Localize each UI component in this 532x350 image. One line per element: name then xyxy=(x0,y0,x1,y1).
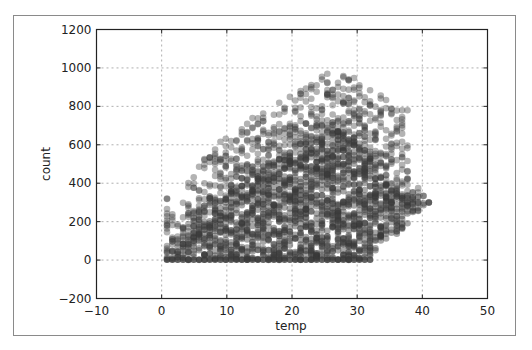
data-point xyxy=(292,124,299,131)
data-point xyxy=(319,103,326,110)
data-point xyxy=(313,82,320,89)
data-point xyxy=(244,152,251,159)
data-point xyxy=(404,145,411,152)
x-tick-label: 0 xyxy=(158,304,166,318)
data-point xyxy=(351,160,358,167)
data-point xyxy=(324,80,331,87)
data-point xyxy=(303,91,310,98)
scatter-chart: −1001020304050 −200020040060080010001200… xyxy=(0,0,532,350)
data-point xyxy=(351,75,358,82)
data-point xyxy=(399,130,406,137)
data-point xyxy=(340,114,347,121)
data-point xyxy=(260,118,267,125)
data-point xyxy=(335,230,342,237)
data-point xyxy=(303,120,310,127)
data-point xyxy=(292,109,299,116)
data-point xyxy=(335,79,342,86)
data-point xyxy=(356,90,363,97)
data-point xyxy=(399,122,406,129)
data-point xyxy=(399,114,406,121)
data-point xyxy=(244,130,251,137)
data-point xyxy=(372,247,379,254)
data-point xyxy=(190,174,197,181)
data-point xyxy=(169,217,176,224)
x-tick-label: 20 xyxy=(284,304,299,318)
data-point xyxy=(361,94,368,101)
data-point xyxy=(164,195,171,202)
data-point xyxy=(239,147,246,154)
data-point xyxy=(319,218,326,225)
data-point xyxy=(404,176,411,183)
data-point xyxy=(399,138,406,145)
y-tick-label: 200 xyxy=(69,215,92,229)
data-point xyxy=(297,104,304,111)
data-point xyxy=(361,123,368,130)
data-point xyxy=(404,158,411,165)
y-tick-label: 1200 xyxy=(61,23,92,37)
data-point xyxy=(388,151,395,158)
data-point xyxy=(276,121,283,128)
data-point xyxy=(233,156,240,163)
data-point xyxy=(324,70,331,77)
data-point xyxy=(201,189,208,196)
data-point xyxy=(297,94,304,101)
data-point xyxy=(281,104,288,111)
y-tick-label: 600 xyxy=(69,138,92,152)
data-point xyxy=(222,163,229,170)
data-point xyxy=(367,256,374,263)
data-point xyxy=(244,176,251,183)
x-tick-label: −10 xyxy=(84,304,109,318)
data-point xyxy=(372,129,379,136)
x-tick-label: 40 xyxy=(415,304,430,318)
data-point xyxy=(377,123,384,130)
data-point xyxy=(313,88,320,95)
data-point xyxy=(404,168,411,175)
data-point xyxy=(367,87,374,94)
data-point xyxy=(372,137,379,144)
data-point xyxy=(345,234,352,241)
data-point xyxy=(185,203,192,210)
data-point xyxy=(260,110,267,117)
data-point xyxy=(383,97,390,104)
data-point xyxy=(329,111,336,118)
data-point xyxy=(164,245,171,252)
data-point xyxy=(255,135,262,142)
y-axis-label: count xyxy=(39,147,53,181)
data-point xyxy=(196,247,203,254)
y-tick-label: 1000 xyxy=(61,61,92,75)
y-tick-label: −200 xyxy=(59,292,92,306)
data-point xyxy=(308,95,315,102)
data-point xyxy=(404,220,411,227)
data-point xyxy=(233,138,240,145)
data-point xyxy=(351,99,358,106)
data-point xyxy=(255,151,262,158)
x-axis-label: temp xyxy=(275,319,306,333)
y-tick-label: 0 xyxy=(84,253,92,267)
x-tick-label: 10 xyxy=(219,304,234,318)
data-point xyxy=(399,162,406,169)
data-point xyxy=(426,199,433,206)
data-point xyxy=(399,151,406,158)
data-point xyxy=(329,102,336,109)
data-point xyxy=(164,229,171,236)
data-point xyxy=(383,172,390,179)
data-point xyxy=(415,207,422,214)
x-tick-label: 50 xyxy=(480,304,495,318)
data-point xyxy=(308,109,315,116)
data-point xyxy=(420,193,427,200)
x-axis-ticks: −1001020304050 xyxy=(84,30,495,318)
data-point xyxy=(399,107,406,114)
data-point xyxy=(372,218,379,225)
data-point xyxy=(367,111,374,118)
data-point xyxy=(415,199,422,206)
y-tick-label: 800 xyxy=(69,99,92,113)
data-point xyxy=(345,127,352,134)
y-tick-label: 400 xyxy=(69,176,92,190)
data-points xyxy=(164,70,432,263)
data-point xyxy=(201,165,208,172)
x-tick-label: 30 xyxy=(350,304,365,318)
data-point xyxy=(276,100,283,107)
